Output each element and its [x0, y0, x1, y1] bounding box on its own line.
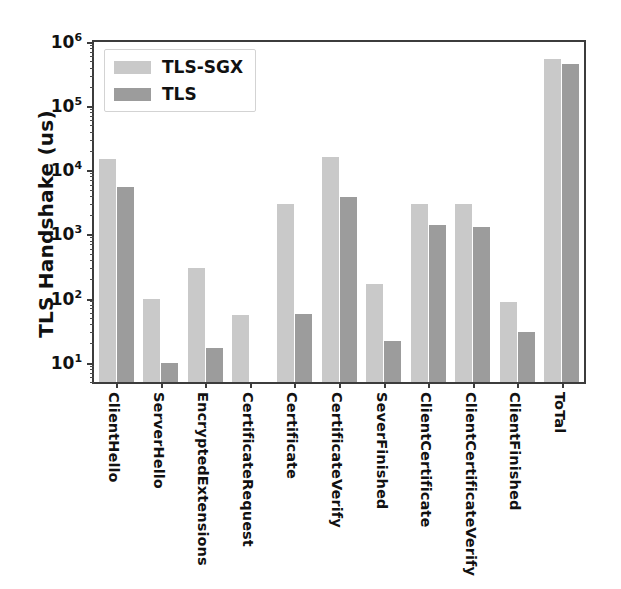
y-tick-label: 102: [51, 289, 89, 309]
y-tick-minor: [90, 140, 94, 141]
y-tick-minor: [90, 176, 94, 177]
bar-tls: [429, 225, 446, 382]
x-axis-label: CertificateVerify: [329, 392, 345, 528]
legend-label-tls-sgx: TLS-SGX: [162, 57, 243, 77]
x-tick: [250, 382, 252, 388]
x-axis-label: ClientHello: [106, 392, 122, 483]
x-axis-label: ClientFinished: [507, 392, 523, 510]
y-tick-minor: [90, 68, 94, 69]
y-tick-minor: [90, 324, 94, 325]
x-tick: [562, 382, 564, 388]
legend-label-tls: TLS: [162, 84, 197, 104]
bar-tls-sgx: [411, 204, 428, 382]
bar-tls: [161, 363, 178, 382]
bar-tls: [518, 332, 535, 382]
y-tick-label: 103: [51, 224, 89, 244]
legend-item-tls-sgx: TLS-SGX: [114, 57, 243, 77]
bar-tls-sgx: [366, 284, 383, 382]
x-tick: [161, 382, 163, 388]
y-tick-minor: [90, 52, 94, 53]
y-tick-minor: [90, 244, 94, 245]
y-tick-minor: [90, 76, 94, 77]
y-tick-label: 101: [51, 353, 89, 373]
y-tick-minor: [90, 237, 94, 238]
y-tick-minor: [90, 305, 94, 306]
y-tick-minor: [90, 151, 94, 152]
x-tick: [473, 382, 475, 388]
y-tick-minor: [90, 116, 94, 117]
y-tick-minor: [90, 313, 94, 314]
y-tick-minor: [90, 332, 94, 333]
legend-swatch-tls: [114, 88, 151, 101]
y-tick-minor: [90, 382, 94, 383]
bar-tls: [206, 348, 223, 382]
bar-tls-sgx: [455, 204, 472, 382]
x-tick: [205, 382, 207, 388]
y-tick-minor: [90, 318, 94, 319]
y-tick-minor: [90, 369, 94, 370]
y-tick-minor: [90, 260, 94, 261]
y-tick-minor: [90, 254, 94, 255]
y-tick-minor: [90, 343, 94, 344]
bar-tls-sgx: [99, 159, 116, 382]
y-tick-label: 104: [51, 160, 89, 180]
bar-tls-sgx: [500, 302, 517, 383]
y-tick-minor: [90, 125, 94, 126]
y-tick-minor: [90, 61, 94, 62]
y-tick-minor: [90, 241, 94, 242]
bar-tls: [562, 64, 579, 382]
y-tick-minor: [90, 185, 94, 186]
y-tick-minor: [90, 204, 94, 205]
y-tick-minor: [90, 48, 94, 49]
legend-item-tls: TLS: [114, 84, 243, 104]
x-axis-label: ClientCertificateVerify: [463, 392, 479, 576]
chart-legend: TLS-SGX TLS: [104, 49, 256, 112]
bar-tls-sgx: [544, 59, 561, 382]
bar-tls-sgx: [188, 268, 205, 382]
bar-tls: [117, 187, 134, 382]
y-tick-minor: [90, 180, 94, 181]
y-tick-minor: [90, 279, 94, 280]
x-axis-label: ToTal: [552, 392, 568, 433]
bar-tls-sgx: [322, 157, 339, 382]
y-tick-minor: [90, 196, 94, 197]
x-tick: [517, 382, 519, 388]
x-axis-label: ServerHello: [151, 392, 167, 489]
x-axis-label: EncryptedExtensions: [195, 392, 211, 566]
legend-swatch-tls-sgx: [114, 61, 151, 74]
y-tick-minor: [90, 308, 94, 309]
y-tick-minor: [90, 377, 94, 378]
y-tick-minor: [90, 112, 94, 113]
y-tick-label: 105: [51, 96, 89, 116]
x-tick: [384, 382, 386, 388]
bar-tls: [295, 314, 312, 382]
x-tick: [428, 382, 430, 388]
bar-tls: [384, 341, 401, 382]
y-tick-minor: [90, 190, 94, 191]
y-tick-minor: [90, 268, 94, 269]
x-tick: [116, 382, 118, 388]
y-tick-minor: [90, 120, 94, 121]
bar-tls: [340, 197, 357, 382]
bar-tls-sgx: [277, 204, 294, 382]
x-tick: [294, 382, 296, 388]
x-tick: [339, 382, 341, 388]
x-axis-label: CertificateRequest: [240, 392, 256, 547]
y-tick-minor: [90, 109, 94, 110]
y-tick-label: 106: [51, 32, 89, 52]
x-axis-label: ClientCertificate: [418, 392, 434, 527]
y-tick-minor: [90, 45, 94, 46]
x-axis-label: Certificate: [284, 392, 300, 479]
y-tick-minor: [90, 301, 94, 302]
bar-chart-figure: TLS Handshake (us) 101102103104105106 TL…: [0, 0, 621, 589]
y-tick-minor: [90, 132, 94, 133]
bar-tls-sgx: [143, 299, 160, 382]
y-tick-minor: [90, 173, 94, 174]
x-axis-label: SeverFinished: [374, 392, 390, 509]
y-tick-minor: [90, 215, 94, 216]
y-tick-minor: [90, 87, 94, 88]
bar-tls-sgx: [232, 315, 249, 382]
y-tick-minor: [90, 56, 94, 57]
y-tick-minor: [90, 366, 94, 367]
y-tick-minor: [90, 249, 94, 250]
